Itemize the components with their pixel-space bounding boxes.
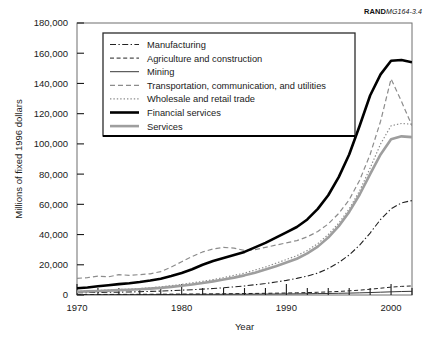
legend-label-4: Wholesale and retail trade bbox=[147, 94, 255, 104]
y-tick-label: 160,000 bbox=[34, 48, 68, 59]
legend-label-5: Financial services bbox=[147, 108, 221, 118]
y-tick-label: 100,000 bbox=[34, 138, 68, 149]
x-tick-label: 1990 bbox=[276, 302, 297, 313]
x-tick-label: 1980 bbox=[171, 302, 192, 313]
legend-label-1: Agriculture and construction bbox=[147, 54, 262, 64]
legend-label-3: Transportation, communication, and utili… bbox=[147, 81, 326, 91]
rand-code: MG164-3.4 bbox=[386, 8, 422, 15]
rand-brand: RAND bbox=[364, 7, 386, 16]
legend-label-6: Services bbox=[147, 122, 183, 132]
y-tick-label: 40,000 bbox=[39, 229, 68, 240]
y-tick-label: 80,000 bbox=[39, 169, 68, 180]
chart-figure: RANDMG164-3.4 020,00040,00060,00080,0001… bbox=[0, 0, 428, 345]
y-tick-label: 180,000 bbox=[34, 17, 68, 28]
x-axis-label: Year bbox=[235, 321, 254, 332]
rand-credit: RANDMG164-3.4 bbox=[364, 7, 422, 16]
x-tick-label: 2000 bbox=[380, 302, 401, 313]
y-tick-label: 0 bbox=[63, 289, 68, 300]
y-axis-label: Millions of fixed 1996 dollars bbox=[13, 99, 24, 219]
legend-label-0: Manufacturing bbox=[147, 40, 206, 50]
legend-label-2: Mining bbox=[147, 67, 174, 77]
y-tick-label: 140,000 bbox=[34, 78, 68, 89]
y-tick-label: 60,000 bbox=[39, 199, 68, 210]
x-tick-label: 1970 bbox=[66, 302, 87, 313]
line-chart: 020,00040,00060,00080,000100,000120,0001… bbox=[0, 0, 428, 345]
y-tick-label: 120,000 bbox=[34, 108, 68, 119]
y-tick-label: 20,000 bbox=[39, 259, 68, 270]
